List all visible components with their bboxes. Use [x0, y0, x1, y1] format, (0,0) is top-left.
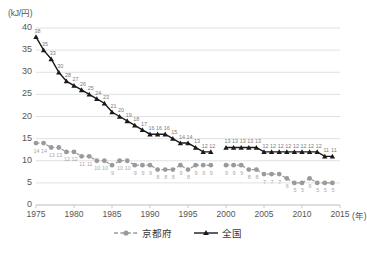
data-point [117, 158, 122, 163]
data-point-label: 9 [240, 170, 243, 176]
data-point-label: 9 [134, 170, 137, 176]
data-point [277, 172, 282, 177]
data-point-label: 12 [202, 143, 208, 149]
chart-legend: 京都府 全国 [0, 222, 356, 244]
data-point-label: 24 [95, 90, 101, 96]
data-point-label: 9 [179, 170, 182, 176]
data-point-label: 14 [41, 148, 47, 154]
data-point-label: 5 [301, 187, 304, 193]
data-point-label: 23 [103, 94, 109, 100]
data-point-label: 11 [79, 161, 85, 167]
data-point [102, 158, 107, 163]
data-point [72, 150, 77, 155]
legend-item-kyoto[interactable]: 京都府 [114, 226, 172, 240]
data-point [64, 150, 69, 155]
data-point-label: 33 [50, 50, 56, 56]
data-point-label: 12 [316, 143, 322, 149]
data-point-label: 12 [308, 143, 314, 149]
data-point-label: 7 [263, 179, 266, 185]
data-point-label: 5 [293, 187, 296, 193]
data-point-label: 12 [293, 143, 299, 149]
data-point-label: 7 [278, 179, 281, 185]
data-point [110, 163, 115, 168]
x-axis-tick-label: 2005 [244, 209, 284, 219]
data-point-label: 26 [80, 81, 86, 87]
data-point-label: 12 [263, 143, 269, 149]
legend-marker-national [194, 228, 218, 238]
x-axis-tick-label: 1995 [168, 209, 208, 219]
data-point [87, 154, 92, 159]
legend-label-kyoto: 京都府 [142, 226, 172, 240]
legend-item-national[interactable]: 全国 [194, 226, 242, 240]
data-point-label: 35 [42, 41, 48, 47]
data-point [41, 141, 46, 146]
x-axis-tick-label: 1980 [54, 209, 94, 219]
y-axis-tick-label: 35 [10, 44, 32, 54]
data-point-label: 11 [323, 147, 329, 153]
x-axis-tick-label: 1985 [92, 209, 132, 219]
data-point-label: 11 [331, 147, 337, 153]
y-axis-tick-label: 20 [10, 111, 32, 121]
data-point-label: 30 [57, 63, 63, 69]
x-axis-tick-label: 1990 [130, 209, 170, 219]
data-point [208, 163, 213, 168]
data-point-label: 13 [49, 152, 55, 158]
data-point-label: 9 [141, 170, 144, 176]
data-point [34, 141, 39, 146]
data-point-label: 14 [34, 148, 40, 154]
x-axis-tick-label: 1975 [16, 209, 56, 219]
data-point-label: 19 [126, 112, 132, 118]
data-point [231, 163, 236, 168]
data-point [224, 163, 229, 168]
data-point-label: 12 [301, 143, 307, 149]
y-axis-tick-label: 0 [10, 199, 32, 209]
data-point-label: 8 [157, 174, 160, 180]
data-point-label: 5 [316, 187, 319, 193]
data-point [132, 163, 137, 168]
data-point-label: 13 [240, 138, 246, 144]
data-point [262, 172, 267, 177]
data-point-label: 12 [278, 143, 284, 149]
data-point [163, 167, 168, 172]
data-point-label: 9 [149, 170, 152, 176]
data-point-label: 12 [270, 143, 276, 149]
data-point-label: 9 [233, 170, 236, 176]
data-point-label: 9 [111, 170, 114, 176]
data-point [315, 180, 320, 185]
x-axis-unit-label: (年) [352, 209, 367, 221]
data-point-label: 14 [179, 134, 185, 140]
data-point [239, 163, 244, 168]
data-point [49, 145, 54, 150]
data-point-label: 10 [102, 165, 108, 171]
data-point-label: 8 [187, 174, 190, 180]
data-point-label: 5 [324, 187, 327, 193]
x-axis-tick-label: 2000 [206, 209, 246, 219]
data-point [246, 167, 251, 172]
data-point [178, 163, 183, 168]
data-point-label: 10 [117, 165, 123, 171]
data-point [254, 167, 259, 172]
data-point-label: 16 [164, 125, 170, 131]
data-point-label: 13 [194, 138, 200, 144]
data-point-label: 8 [172, 174, 175, 180]
y-axis-tick-label: 40 [10, 22, 32, 32]
x-axis-tick-label: 2010 [282, 209, 322, 219]
data-point-label: 9 [195, 170, 198, 176]
data-point-label: 16 [156, 125, 162, 131]
data-point-label: 9 [225, 170, 228, 176]
data-point-label: 17 [141, 121, 147, 127]
y-axis-tick-label: 25 [10, 88, 32, 98]
data-point-label: 16 [149, 125, 155, 131]
data-point-label: 25 [88, 85, 94, 91]
data-point-label: 10 [125, 165, 131, 171]
data-point-label: 7 [271, 179, 274, 185]
data-point-label: 20 [118, 107, 124, 113]
data-point [193, 163, 198, 168]
data-point-label: 8 [248, 174, 251, 180]
data-point [94, 158, 99, 163]
y-axis-tick-label: 10 [10, 155, 32, 165]
data-point [186, 167, 191, 172]
data-point [125, 158, 130, 163]
data-point-label: 15 [171, 129, 177, 135]
legend-label-national: 全国 [222, 226, 242, 240]
